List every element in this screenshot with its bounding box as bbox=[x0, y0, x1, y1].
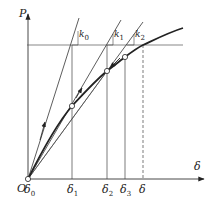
tick-delta3: δ3 bbox=[120, 184, 131, 198]
load-deflection-diagram bbox=[0, 0, 217, 209]
k0-line bbox=[28, 18, 79, 179]
point-origin bbox=[25, 176, 30, 181]
point-2 bbox=[104, 68, 109, 73]
point-1 bbox=[69, 103, 74, 108]
tick-delta1: δ1 bbox=[67, 184, 78, 198]
k0-label: k0 bbox=[79, 30, 89, 42]
k1-label: k1 bbox=[114, 30, 124, 42]
k2-label: k2 bbox=[135, 30, 145, 42]
x-axis-label: δ bbox=[194, 161, 201, 172]
point-3 bbox=[122, 54, 127, 59]
load-deflection-curve bbox=[28, 28, 183, 179]
tick-delta2: δ2 bbox=[102, 184, 113, 198]
secant-line bbox=[28, 71, 107, 179]
tick-delta0: δ0 bbox=[24, 184, 35, 198]
tick-delta: δ bbox=[139, 184, 146, 198]
k0-arrow bbox=[40, 122, 45, 140]
y-axis-label: P bbox=[19, 8, 26, 19]
